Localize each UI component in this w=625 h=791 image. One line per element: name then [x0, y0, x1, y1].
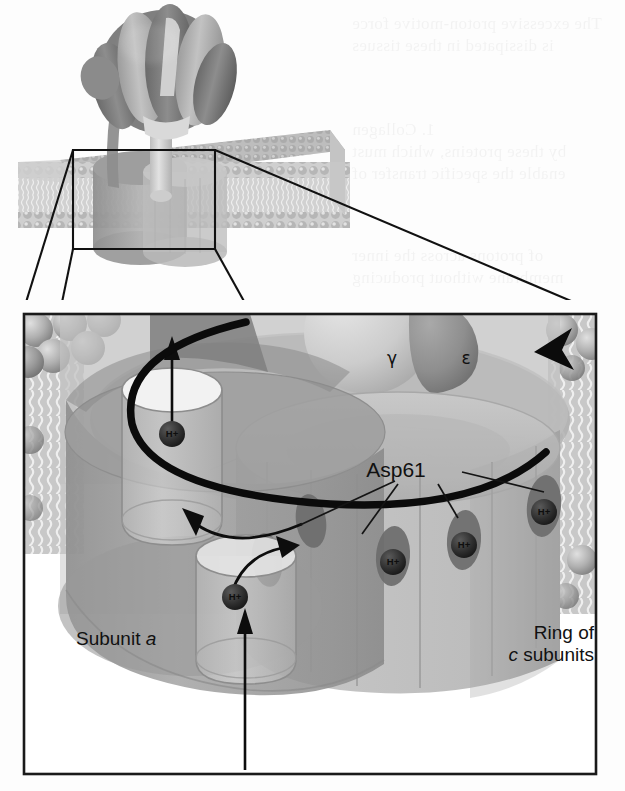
atp-synthase-illustration: H+H+H+H+H+ Asp61 γ ε Subunit a Ring of: [0, 0, 625, 791]
figure-root: The excessive proton-motive forceis diss…: [0, 0, 625, 791]
